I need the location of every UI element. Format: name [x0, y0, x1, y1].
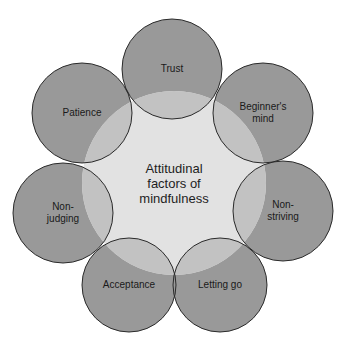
factor-label: Acceptance: [103, 279, 155, 291]
factor-label: Non- striving: [267, 199, 299, 223]
factor-label: Letting go: [198, 279, 242, 291]
factor-label: Beginner's mind: [240, 101, 287, 125]
factor-label: Non- judging: [47, 201, 79, 225]
factor-label: Patience: [63, 107, 102, 119]
center-label: Attitudinal factors of mindfulness: [139, 161, 208, 206]
factor-label: Trust: [161, 63, 183, 75]
